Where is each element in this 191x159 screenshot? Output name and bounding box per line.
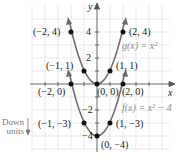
point-label: (2, 4) bbox=[129, 27, 151, 37]
point-label: (0, −4) bbox=[101, 140, 128, 150]
x-axis-label: x bbox=[168, 88, 172, 98]
g-function-label: g(x) = x² bbox=[122, 41, 157, 51]
point-label: (−2, 0) bbox=[38, 87, 65, 97]
f-function-label: f(x) = x² − 4 bbox=[122, 103, 172, 113]
point-label: (−2, 4) bbox=[33, 27, 60, 37]
y-tick-label: −4 bbox=[82, 131, 93, 141]
shift-annotation: Down units bbox=[0, 118, 24, 137]
annotation-line: units bbox=[0, 127, 24, 136]
parabola-graph bbox=[0, 0, 191, 159]
down-arrow-icon bbox=[26, 118, 30, 135]
y-axis-label: y bbox=[88, 2, 92, 12]
y-tick-label: 2 bbox=[86, 53, 91, 63]
point-label: (0, 0) bbox=[97, 87, 119, 97]
point-label: (2, 0) bbox=[122, 87, 144, 97]
point-label: (−1, 1) bbox=[46, 61, 73, 71]
y-tick-label: 4 bbox=[86, 27, 91, 37]
point-label: (−1, −3) bbox=[38, 119, 71, 129]
y-tick-label: −2 bbox=[82, 105, 93, 115]
point-label: (1, −3) bbox=[116, 119, 143, 129]
point-label: (1, 1) bbox=[116, 61, 138, 71]
